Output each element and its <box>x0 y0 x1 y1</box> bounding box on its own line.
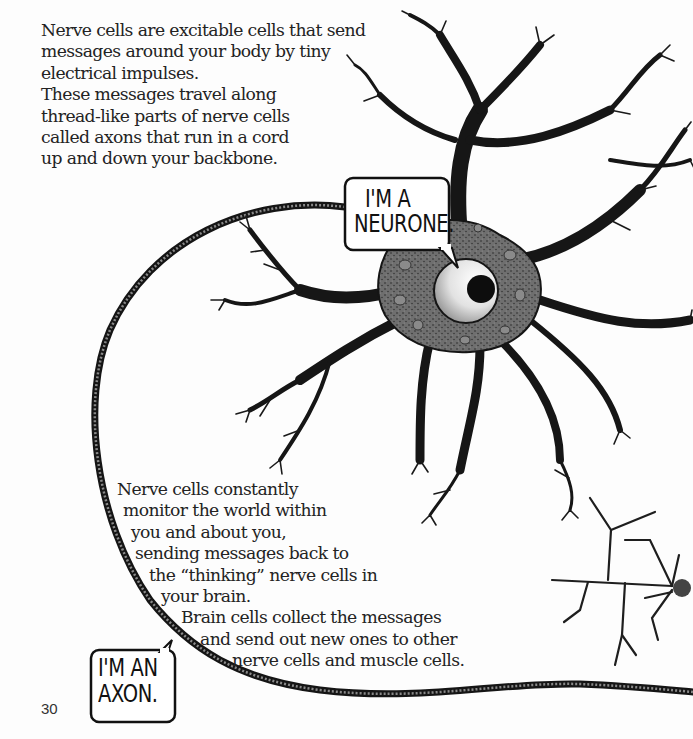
intro-paragraph: Nerve cells are excitable cells that sen… <box>41 20 365 170</box>
intro-line: These messages travel along <box>41 84 365 105</box>
body-line: and send out new ones to other <box>0 629 464 650</box>
neurone-bubble-text: I'M A NEURONE. <box>354 186 454 236</box>
body-line: monitor the world within <box>0 500 464 521</box>
body-line: your brain. <box>0 586 464 607</box>
axon-bubble-line-1: I'M AN <box>98 655 158 681</box>
intro-line: electrical impulses. <box>41 63 365 84</box>
body-line: Nerve cells constantly <box>0 479 464 500</box>
neurone-bubble-line-2: NEURONE. <box>354 211 454 236</box>
body-line: nerve cells and muscle cells. <box>0 650 464 671</box>
intro-line: called axons that run in a cord <box>41 127 365 148</box>
small-neuron <box>552 498 679 665</box>
book-page: Nerve cells are excitable cells that sen… <box>0 0 693 739</box>
axon-bubble-text: I'M AN AXON. <box>98 655 158 707</box>
small-neuron-body <box>673 579 691 597</box>
body-line: Brain cells collect the messages <box>0 607 464 628</box>
neurone-bubble-line-1: I'M A <box>354 186 454 211</box>
body-line: the “thinking” nerve cells in <box>0 565 464 586</box>
body-paragraph: Nerve cells constantly monitor the world… <box>0 479 464 672</box>
intro-line: Nerve cells are excitable cells that sen… <box>41 20 365 41</box>
intro-line: messages around your body by tiny <box>41 41 365 62</box>
page-number: 30 <box>41 700 58 717</box>
body-line: sending messages back to <box>0 543 464 564</box>
axon-bubble-line-2: AXON. <box>98 681 158 707</box>
intro-line: up and down your backbone. <box>41 148 365 169</box>
intro-line: thread-like parts of nerve cells <box>41 106 365 127</box>
body-line: you and about you, <box>0 522 464 543</box>
nucleolus <box>467 275 495 303</box>
